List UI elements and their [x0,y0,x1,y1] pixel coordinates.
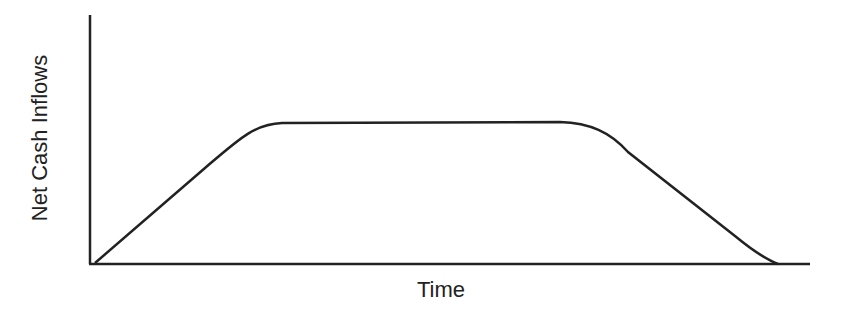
cash-flow-curve [95,122,778,264]
x-axis-label: Time [417,277,465,303]
chart-area [0,0,846,316]
y-axis-label: Net Cash Inflows [27,55,53,221]
